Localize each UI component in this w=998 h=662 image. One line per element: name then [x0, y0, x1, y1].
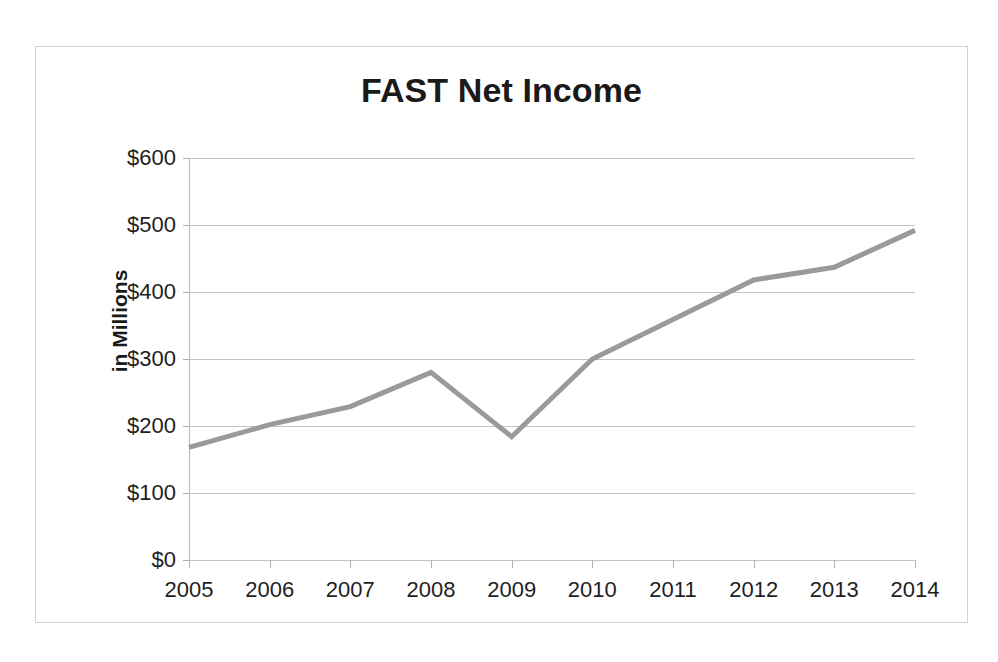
x-tick-mark	[592, 560, 593, 568]
x-tick-mark	[512, 560, 513, 568]
x-tick-mark	[431, 560, 432, 568]
x-tick-mark	[915, 560, 916, 568]
x-tick-label: 2005	[165, 577, 214, 603]
x-tick-mark	[754, 560, 755, 568]
x-tick-label: 2010	[568, 577, 617, 603]
y-tick-label: $500	[127, 212, 176, 238]
x-tick-label: 2009	[487, 577, 536, 603]
x-tick-label: 2012	[729, 577, 778, 603]
x-tick-mark	[189, 560, 190, 568]
chart-container: FAST Net Income in Millions $600$500$400…	[35, 46, 968, 623]
x-tick-mark	[834, 560, 835, 568]
x-tick-label: 2007	[326, 577, 375, 603]
y-tick-label: $400	[127, 279, 176, 305]
gridline	[189, 560, 915, 561]
x-tick-mark	[350, 560, 351, 568]
y-tick-label: $0	[152, 547, 176, 573]
series-line-fast-net-income	[189, 230, 915, 447]
x-tick-label: 2006	[245, 577, 294, 603]
plot-area: $600$500$400$300$200$100$0 2005200620072…	[189, 158, 915, 560]
x-tick-mark	[270, 560, 271, 568]
y-tick-label: $100	[127, 480, 176, 506]
x-tick-label: 2008	[407, 577, 456, 603]
chart-title: FAST Net Income	[36, 71, 967, 110]
x-tick-label: 2014	[891, 577, 940, 603]
x-tick-label: 2013	[810, 577, 859, 603]
y-tick-label: $200	[127, 413, 176, 439]
y-tick-label: $300	[127, 346, 176, 372]
x-tick-mark	[673, 560, 674, 568]
y-tick-label: $600	[127, 145, 176, 171]
x-tick-label: 2011	[649, 577, 696, 603]
y-axis-title: in Millions	[108, 231, 132, 411]
series-line-chart	[189, 158, 915, 560]
